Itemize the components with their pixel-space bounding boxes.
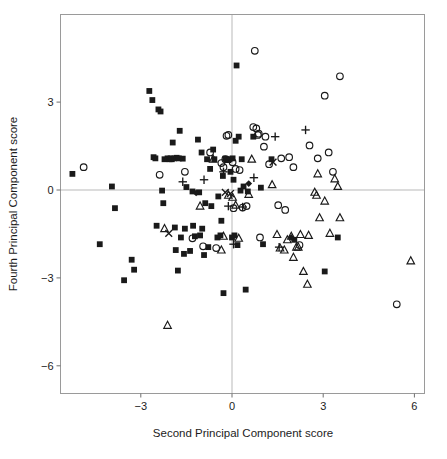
data-point-square [149, 97, 155, 103]
data-point-circle [306, 142, 313, 149]
y-tick-label: 3 [47, 96, 53, 108]
data-point-triangle [164, 321, 172, 328]
data-point-square [173, 247, 179, 253]
data-point-circle [290, 164, 297, 171]
data-point-triangle [326, 229, 334, 236]
data-point-square [129, 257, 135, 263]
data-point-triangle [297, 230, 305, 237]
x-tick-label: −3 [135, 400, 148, 412]
scatter-figure: −3036 30−3−6 Second Principal Component … [0, 0, 447, 459]
data-point-triangle [331, 175, 339, 182]
data-point-square [131, 267, 137, 273]
data-point-square [181, 251, 187, 257]
data-point-circle [80, 164, 87, 171]
data-point-triangle [268, 181, 276, 188]
data-point-circle [207, 149, 214, 156]
data-point-triangle [161, 225, 169, 232]
data-point-square [335, 235, 341, 241]
caption-ghost-line [14, 448, 314, 456]
data-point-square [172, 225, 178, 231]
data-point-triangle [300, 267, 308, 274]
data-point-square [97, 241, 103, 247]
data-point-circle [278, 155, 285, 162]
data-point-circle [286, 154, 293, 161]
scatter-plot-svg: −3036 30−3−6 Second Principal Component … [0, 0, 447, 459]
data-point-square [234, 63, 240, 69]
data-point-square [215, 194, 221, 200]
data-point-square [207, 166, 213, 172]
data-point-square [152, 155, 158, 161]
data-point-square [177, 128, 183, 134]
data-point-square [158, 109, 164, 115]
data-point-square [175, 268, 181, 274]
y-tick-label: −6 [41, 360, 54, 372]
data-point-triangle [304, 280, 312, 287]
data-point-square [260, 241, 266, 247]
series-open-circle [80, 48, 400, 308]
data-point-plus [271, 132, 279, 140]
data-point-circle [325, 149, 332, 156]
data-point-triangle [321, 197, 329, 204]
data-point-circle [252, 48, 259, 55]
data-point-plus [301, 126, 309, 134]
data-point-triangle [248, 155, 256, 162]
data-point-triangle [334, 182, 342, 189]
data-point-square [154, 223, 160, 229]
y-tick-label: −3 [41, 272, 54, 284]
data-point-square [241, 184, 247, 190]
x-tick-label: 0 [229, 400, 235, 412]
x-tick-label: 6 [411, 400, 417, 412]
data-point-square [208, 203, 214, 209]
data-point-square [159, 188, 165, 194]
data-point-square [197, 233, 203, 239]
data-point-triangle [407, 257, 415, 264]
data-point-circle [321, 92, 328, 99]
data-point-square [109, 184, 115, 190]
data-point-triangle [305, 231, 313, 238]
data-point-square [235, 242, 241, 248]
data-point-circle [330, 169, 337, 176]
data-point-circle [314, 155, 321, 162]
data-point-square [231, 177, 237, 183]
data-point-square [195, 137, 201, 143]
data-point-square [236, 134, 242, 140]
data-point-triangle [314, 170, 322, 177]
data-point-plus [200, 176, 208, 184]
y-tick-label: 0 [47, 184, 53, 196]
data-point-circle [182, 169, 189, 176]
data-point-square [112, 205, 118, 211]
data-point-square [70, 171, 76, 177]
data-point-square [184, 184, 190, 190]
data-point-plus [224, 202, 232, 210]
data-point-circle [275, 202, 282, 209]
y-axis-ticks: 30−3−6 [41, 96, 61, 372]
data-point-square [221, 290, 227, 296]
data-point-square [218, 218, 224, 224]
data-point-triangle [273, 230, 281, 237]
data-point-square [187, 248, 193, 254]
data-point-square [258, 185, 264, 191]
data-point-triangle [316, 214, 324, 221]
data-point-square [199, 226, 205, 232]
data-point-square [180, 156, 186, 162]
x-tick-label: 3 [320, 400, 326, 412]
data-point-square [239, 156, 245, 162]
data-point-triangle [336, 214, 344, 221]
data-point-cross [165, 230, 172, 237]
data-markers [70, 48, 415, 329]
data-point-circle [337, 73, 344, 80]
data-point-square [170, 140, 176, 146]
data-point-square [160, 200, 166, 206]
data-point-square [202, 200, 208, 206]
data-point-circle [257, 234, 264, 241]
data-point-square [204, 156, 210, 162]
data-point-square [322, 269, 328, 275]
data-point-square [243, 287, 249, 293]
data-point-circle [262, 133, 269, 140]
y-axis-title: Fourth Principal Component score [7, 117, 19, 292]
data-point-triangle [313, 191, 321, 198]
x-axis-title: Second Principal Component score [153, 427, 333, 439]
data-point-square [182, 226, 188, 232]
data-point-plus [250, 173, 258, 181]
x-axis-ticks: −3036 [135, 394, 418, 412]
